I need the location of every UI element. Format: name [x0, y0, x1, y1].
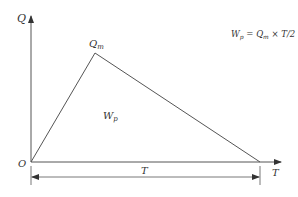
- duration-label: T: [141, 165, 149, 176]
- x-axis-label: T: [272, 167, 280, 178]
- hydrograph-line: [31, 53, 260, 162]
- formula-q: Q: [256, 29, 263, 39]
- formula: Wp = Qm × T/2: [231, 29, 295, 41]
- area-label: Wp: [103, 110, 118, 123]
- peak-label: Qm: [89, 38, 104, 51]
- formula-rest: × T/2: [269, 29, 295, 39]
- area-label-sub: p: [113, 115, 118, 123]
- peak-label-sub: m: [97, 43, 104, 51]
- triangular-hydrograph-diagram: Q O T Qm Wp T Wp = Qm × T/2: [0, 0, 298, 197]
- y-axis-label: Q: [17, 12, 26, 25]
- peak-label-main: Q: [89, 38, 97, 49]
- origin-label: O: [18, 158, 26, 169]
- formula-eq: =: [244, 29, 257, 39]
